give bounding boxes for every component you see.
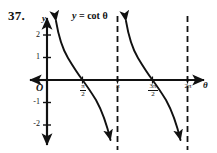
- function-label-rhs: cot θ: [87, 10, 108, 21]
- x-tick-label-3pi-over-2: 3π 2: [145, 83, 161, 99]
- y-axis-label: y: [42, 13, 46, 23]
- origin-label: O: [36, 82, 43, 93]
- tick-text-pi: π: [116, 83, 120, 90]
- x-axis-label: θ: [203, 80, 208, 90]
- tick-text-2pi: 2π: [184, 83, 191, 90]
- x-tick-label-2pi: 2π: [181, 83, 195, 90]
- y-tick-label-1: 1: [24, 52, 40, 61]
- figure-container: 37.: [0, 0, 217, 153]
- cotangent-plot: [0, 0, 217, 153]
- fraction-denominator: 2: [148, 91, 157, 98]
- x-tick-label-pi-over-2: π 2: [76, 83, 90, 99]
- function-label: y = cot θ: [72, 10, 108, 21]
- y-tick-label-neg1: -1: [24, 97, 40, 106]
- fraction-denominator: 2: [80, 91, 86, 98]
- x-tick-label-pi: π: [111, 83, 125, 90]
- y-tick-label-neg2: -2: [24, 119, 40, 128]
- function-label-eq: =: [79, 10, 85, 21]
- fraction-pi-over-2: π 2: [80, 83, 86, 99]
- fraction-3pi-over-2: 3π 2: [148, 83, 157, 99]
- y-tick-label-2: 2: [24, 30, 40, 39]
- function-label-lhs: y: [72, 10, 76, 21]
